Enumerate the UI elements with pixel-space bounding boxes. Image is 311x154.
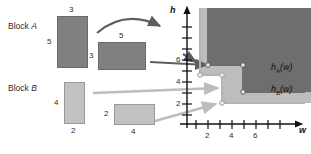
w-tick-label-4: 4 [229, 131, 233, 140]
w-tick-label-6: 6 [253, 131, 257, 140]
hb-series-label: hB(w) [271, 85, 293, 98]
figure-canvas: Block A 3 5 5 3 Block B 4 2 2 4 [0, 0, 311, 154]
block-a-to-graph-arrow-2 [183, 54, 196, 62]
h-tick-label-2: 2 [176, 99, 180, 108]
hb-series-label-suffix: (w) [280, 84, 293, 94]
h-tick-label-6: 6 [176, 55, 180, 64]
ha-series-label: hA(w) [271, 63, 293, 76]
w-axis-label: w [299, 126, 306, 135]
h-axis-label: h [170, 6, 176, 15]
block-b-to-graph-arrow-1 [93, 88, 218, 93]
w-tick-label-2: 2 [205, 131, 209, 140]
block-a-rotation-arrow [97, 19, 160, 33]
block-b-to-graph-arrow-2 [155, 104, 216, 121]
h-tick-label-4: 4 [176, 77, 180, 86]
ha-series-label-suffix: (w) [280, 62, 293, 72]
figure-svg [0, 0, 311, 154]
